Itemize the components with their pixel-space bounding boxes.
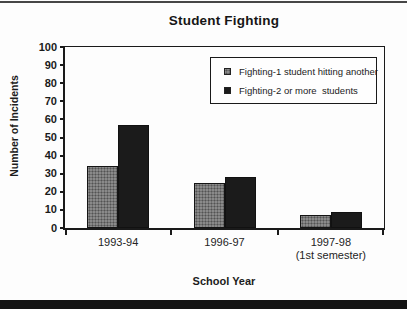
x-label-3: 1997-98(1st semester): [296, 236, 366, 261]
legend: Fighting-1 student hitting another Fight…: [210, 57, 377, 104]
y-tick-mark: [60, 82, 65, 84]
y-tick-mark: [60, 64, 65, 66]
y-tick-30: 30: [25, 173, 65, 175]
x-tick-0: [65, 230, 67, 235]
series-1-label: Fighting-1 student hitting another: [239, 67, 378, 77]
y-tick-label: 80: [45, 78, 57, 89]
y-tick-mark: [60, 118, 65, 120]
y-tick-label: 100: [39, 42, 57, 53]
bar-series2-cat3: [331, 212, 362, 228]
y-tick-label: 50: [45, 132, 57, 143]
x-axis-category-labels: 1993-941996-971997-98(1st semester): [65, 236, 384, 266]
y-tick-mark: [60, 137, 65, 139]
y-tick-label: 60: [45, 114, 57, 125]
x-label-1: 1993-94: [98, 236, 138, 249]
y-tick-mark: [60, 227, 65, 229]
y-tick-label: 10: [45, 204, 57, 215]
bar-series1-cat1: [87, 166, 118, 228]
y-tick-mark: [60, 46, 65, 48]
scanned-chart-page: Student Fighting Number of Incidents 010…: [0, 0, 407, 309]
x-tick-2: [277, 230, 279, 235]
y-tick-50: 50: [25, 137, 65, 139]
bar-series1-cat2: [194, 183, 225, 228]
y-axis-title: Number of Incidents: [8, 75, 20, 177]
series-1-square-marker-icon: [224, 68, 231, 75]
y-tick-70: 70: [25, 100, 65, 102]
y-tick-label: 90: [45, 60, 57, 71]
y-tick-10: 10: [25, 209, 65, 211]
y-tick-mark: [60, 173, 65, 175]
x-tick-1: [170, 230, 172, 235]
y-tick-90: 90: [25, 64, 65, 66]
y-tick-label: 30: [45, 168, 57, 179]
y-tick-mark: [60, 209, 65, 211]
y-tick-80: 80: [25, 82, 65, 84]
bottom-band: [0, 300, 407, 309]
series-2-square-marker-icon: [224, 87, 231, 94]
plot-area: 0102030405060708090100 Fighting-1 studen…: [63, 46, 385, 230]
y-tick-label: 40: [45, 150, 57, 161]
y-tick-mark: [60, 191, 65, 193]
y-tick-40: 40: [25, 155, 65, 157]
y-tick-mark: [60, 155, 65, 157]
series-2-label: Fighting-2 or more students: [239, 86, 358, 96]
x-label-2: 1996-97: [204, 236, 244, 249]
y-tick-label: 0: [51, 223, 57, 234]
chart-title: Student Fighting: [63, 13, 385, 28]
x-tick-3: [382, 230, 384, 235]
x-axis-title: School Year: [63, 275, 385, 287]
y-tick-label: 20: [45, 186, 57, 197]
bar-series1-cat3: [300, 215, 331, 228]
y-tick-20: 20: [25, 191, 65, 193]
y-tick-60: 60: [25, 118, 65, 120]
bar-series2-cat2: [225, 177, 256, 228]
y-tick-0: 0: [25, 227, 65, 229]
top-rule: [0, 1, 407, 3]
y-tick-label: 70: [45, 96, 57, 107]
y-tick-mark: [60, 100, 65, 102]
legend-item-series-1: Fighting-1 student hitting another: [224, 67, 376, 77]
bar-series2-cat1: [118, 125, 149, 228]
legend-item-series-2: Fighting-2 or more students: [224, 86, 376, 96]
y-tick-100: 100: [25, 46, 65, 48]
